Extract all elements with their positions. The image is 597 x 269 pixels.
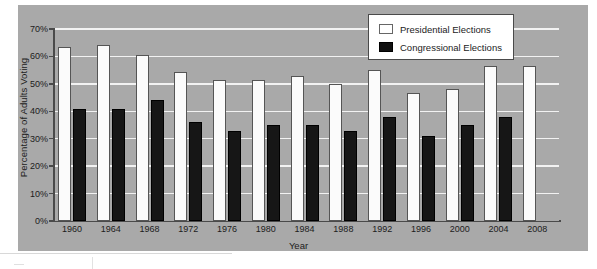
bar xyxy=(344,131,357,222)
bar xyxy=(306,125,319,221)
x-axis-tick-label: 1996 xyxy=(401,224,441,234)
x-axis-tick-label: 1968 xyxy=(130,224,170,234)
bar-group xyxy=(291,29,330,221)
y-axis-tick xyxy=(49,111,54,113)
bar xyxy=(368,70,381,221)
bar xyxy=(58,47,71,221)
x-axis-tick-label: 1988 xyxy=(323,224,363,234)
x-axis-tick-label: 1976 xyxy=(207,224,247,234)
bar xyxy=(213,80,226,221)
y-axis-tick xyxy=(49,28,54,30)
bar xyxy=(383,117,396,221)
legend-item-presidential: Presidential Elections xyxy=(379,21,513,37)
artifact-dash xyxy=(14,264,24,265)
x-axis-tick-label: 2008 xyxy=(517,224,557,234)
bar xyxy=(252,80,265,221)
bar-group xyxy=(329,29,368,221)
y-axis-tick-label: 20% xyxy=(14,161,48,171)
bar xyxy=(189,122,202,221)
y-axis-tick-labels: 0%10%20%30%40%50%60%70% xyxy=(8,0,48,269)
bar xyxy=(329,84,342,221)
legend-item-label: Congressional Elections xyxy=(400,42,502,53)
scan-artifact xyxy=(0,251,597,269)
bar xyxy=(97,45,110,221)
artifact-rule xyxy=(0,253,232,254)
black-square-icon xyxy=(379,42,393,52)
bar xyxy=(461,125,474,221)
bar xyxy=(407,93,420,221)
bar xyxy=(422,136,435,221)
chart-legend: Presidential Elections Congressional Ele… xyxy=(368,14,514,60)
y-axis-tick-label: 0% xyxy=(14,216,48,226)
x-axis-tick-label: 1964 xyxy=(91,224,131,234)
bar xyxy=(484,66,497,221)
x-axis-title: Year xyxy=(0,240,597,251)
y-axis-tick xyxy=(49,138,54,140)
y-axis-tick-label: 50% xyxy=(14,79,48,89)
y-axis-tick-label: 60% xyxy=(14,51,48,61)
bar xyxy=(151,100,164,221)
bar xyxy=(73,109,86,221)
x-axis-tick-label: 1972 xyxy=(168,224,208,234)
y-axis-tick-label: 70% xyxy=(14,24,48,34)
white-square-icon xyxy=(379,24,393,34)
y-axis-tick-label: 30% xyxy=(14,134,48,144)
artifact-tick xyxy=(92,257,93,269)
bar xyxy=(136,55,149,221)
bar xyxy=(291,76,304,221)
x-axis-tick-label: 2004 xyxy=(478,224,518,234)
x-axis-tick-label: 1980 xyxy=(246,224,286,234)
bar-group xyxy=(252,29,291,221)
bar-group xyxy=(97,29,136,221)
x-axis-tick-label: 1992 xyxy=(362,224,402,234)
y-axis-tick-label: 10% xyxy=(14,189,48,199)
bar-group xyxy=(174,29,213,221)
y-axis-tick xyxy=(49,56,54,58)
bar-group xyxy=(58,29,97,221)
bar xyxy=(228,131,241,222)
bar xyxy=(174,72,187,221)
bar xyxy=(267,125,280,221)
chart-figure: Percentage of Adults Voting 0%10%20%30%4… xyxy=(0,0,597,269)
y-axis-tick xyxy=(49,220,54,222)
y-axis-tick xyxy=(49,193,54,195)
x-axis-tick-label: 2000 xyxy=(440,224,480,234)
x-axis-tick-label: 1960 xyxy=(52,224,92,234)
y-axis-tick xyxy=(49,165,54,167)
legend-item-congressional: Congressional Elections xyxy=(379,39,513,55)
bar xyxy=(523,66,536,221)
bar-group xyxy=(523,29,562,221)
y-axis-tick xyxy=(49,83,54,85)
bar xyxy=(499,117,512,221)
y-axis-tick-label: 40% xyxy=(14,106,48,116)
bar-group xyxy=(213,29,252,221)
legend-item-label: Presidential Elections xyxy=(400,24,491,35)
bar xyxy=(112,109,125,221)
x-axis-tick-label: 1984 xyxy=(285,224,325,234)
bar-group xyxy=(136,29,175,221)
bar xyxy=(446,89,459,221)
